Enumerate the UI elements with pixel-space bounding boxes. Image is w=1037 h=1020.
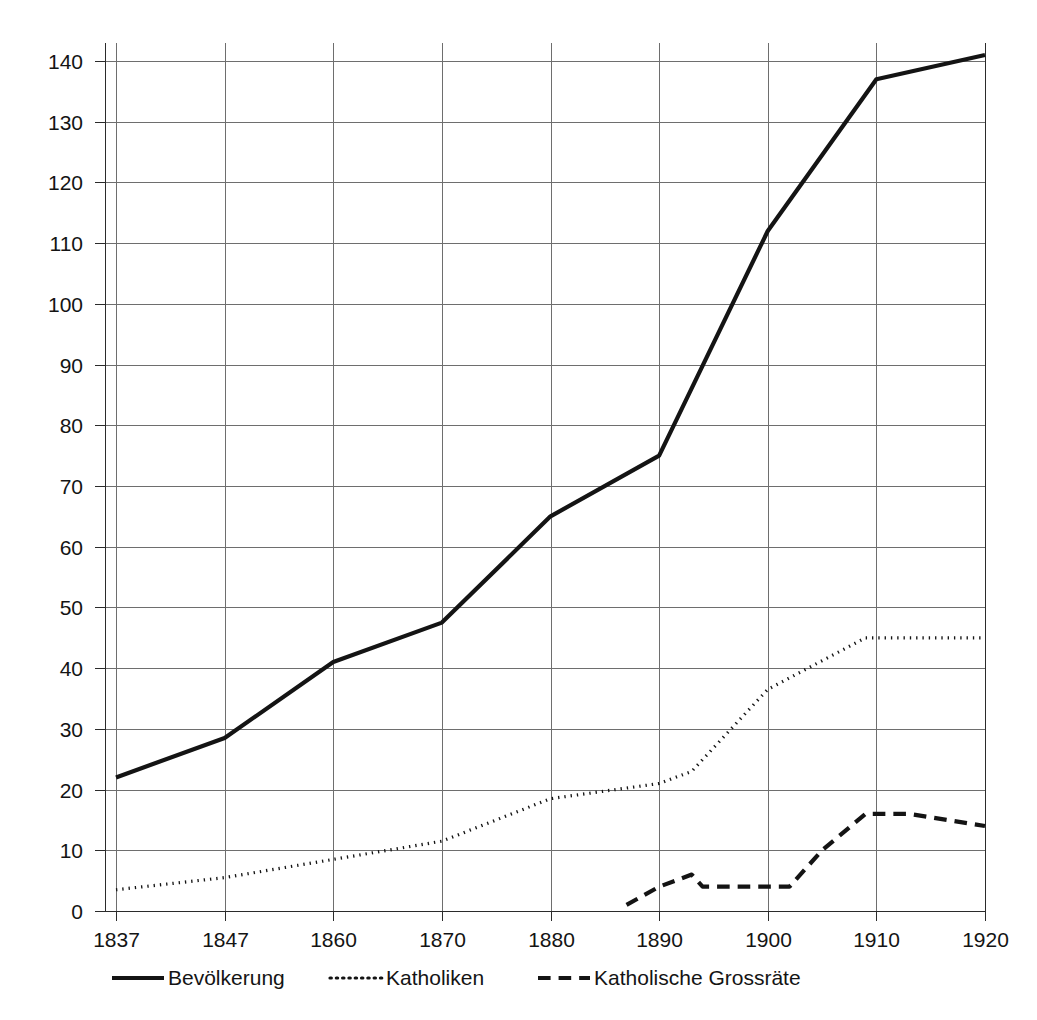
series-line-1 bbox=[116, 55, 985, 778]
y-axis-tick-label: 50 bbox=[60, 596, 83, 619]
y-axis-tick-label: 40 bbox=[60, 657, 83, 680]
y-axis-tick-label: 100 bbox=[48, 293, 83, 316]
y-axis-tick-labels: 0102030405060708090100110120130140 bbox=[48, 50, 83, 923]
y-axis-tick-label: 10 bbox=[60, 839, 83, 862]
y-axis-tick-label: 130 bbox=[48, 111, 83, 134]
legend-label: Katholische Grossräte bbox=[594, 966, 801, 989]
x-axis-tick-label: 1847 bbox=[202, 928, 249, 951]
x-axis-tick-label: 1900 bbox=[745, 928, 792, 951]
series-line-3 bbox=[627, 814, 985, 905]
gridlines bbox=[105, 43, 986, 911]
x-axis-tick-label: 1910 bbox=[853, 928, 900, 951]
x-axis-tick-labels: 183718471860187018801890190019101920 bbox=[93, 928, 1009, 951]
x-axis-tick-label: 1880 bbox=[528, 928, 575, 951]
line-chart: 0102030405060708090100110120130140 18371… bbox=[0, 0, 1037, 1020]
x-axis-tick-label: 1920 bbox=[962, 928, 1009, 951]
legend-label: Katholiken bbox=[386, 966, 484, 989]
y-axis-tick-label: 90 bbox=[60, 354, 83, 377]
y-axis-tick-label: 110 bbox=[50, 232, 83, 255]
y-axis-tick-label: 60 bbox=[60, 536, 83, 559]
y-axis-tick-label: 30 bbox=[60, 718, 83, 741]
tick-marks bbox=[95, 62, 986, 922]
y-axis-tick-label: 70 bbox=[60, 475, 83, 498]
chart-legend: BevölkerungKatholikenKatholische Grossrä… bbox=[112, 966, 801, 989]
x-axis-tick-label: 1890 bbox=[636, 928, 683, 951]
y-axis-tick-label: 0 bbox=[71, 900, 83, 923]
y-axis-tick-label: 140 bbox=[48, 50, 83, 73]
x-axis-tick-label: 1837 bbox=[93, 928, 140, 951]
legend-label: Bevölkerung bbox=[168, 966, 285, 989]
y-axis-tick-label: 20 bbox=[60, 779, 83, 802]
x-axis-tick-label: 1860 bbox=[310, 928, 357, 951]
chart-figure: 0102030405060708090100110120130140 18371… bbox=[0, 0, 1037, 1020]
y-axis-tick-label: 120 bbox=[48, 171, 83, 194]
series-line-2 bbox=[116, 638, 985, 890]
x-axis-tick-label: 1870 bbox=[419, 928, 466, 951]
y-axis-tick-label: 80 bbox=[60, 414, 83, 437]
axes bbox=[105, 43, 986, 912]
